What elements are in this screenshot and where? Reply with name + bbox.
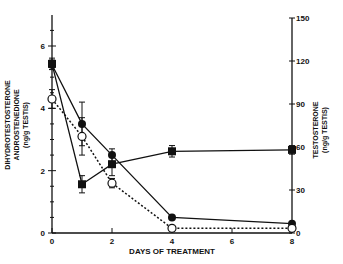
x-tick-label: 6: [230, 237, 235, 246]
y-right-tick-label: 150: [296, 14, 310, 23]
data-point: [168, 147, 176, 155]
chart: 0246802460306090120150 DAYS OF TREATMENT…: [0, 0, 343, 264]
series-line: [52, 64, 292, 184]
data-point: [108, 179, 116, 187]
y-right-tick-label: 90: [296, 100, 305, 109]
data-point: [168, 213, 176, 221]
series-layer: [48, 58, 296, 232]
svg-text:(ng/g TESTIS): (ng/g TESTIS): [22, 102, 30, 148]
x-tick-label: 4: [170, 237, 175, 246]
data-point: [108, 160, 116, 168]
y-right-tick-label: 60: [296, 143, 305, 152]
left-axis-title: DIHYDROTESTOSTERONE ANDROSTENEDIONE (ng/…: [4, 80, 30, 170]
x-tick-label: 0: [50, 237, 55, 246]
y-left-tick-label: 0: [41, 229, 46, 238]
y-left-tick-label: 4: [41, 104, 46, 113]
svg-text:DIHYDROTESTOSTERONE: DIHYDROTESTOSTERONE: [4, 80, 11, 170]
right-axis-title: TESTOSTERONE (ng/g TESTIS): [312, 101, 329, 158]
data-point: [78, 132, 86, 140]
data-point: [48, 95, 56, 103]
y-right-tick-label: 0: [296, 229, 301, 238]
svg-text:(ng/g TESTIS): (ng/g TESTIS): [321, 107, 329, 153]
y-left-tick-label: 6: [41, 42, 46, 51]
data-point: [48, 60, 56, 68]
x-tick-label: 2: [110, 237, 115, 246]
data-point: [168, 224, 176, 232]
series-line: [52, 65, 292, 224]
x-axis-title: DAYS OF TREATMENT: [129, 247, 215, 256]
y-right-tick-label: 120: [296, 57, 310, 66]
x-tick-label: 8: [290, 237, 295, 246]
data-point: [78, 180, 86, 188]
data-point: [288, 146, 296, 154]
series-line: [52, 99, 292, 228]
axes: 0246802460306090120150: [41, 14, 310, 246]
y-right-tick-label: 30: [296, 186, 305, 195]
data-point: [288, 224, 296, 232]
svg-text:TESTOSTERONE: TESTOSTERONE: [312, 101, 319, 158]
y-left-tick-label: 2: [41, 167, 46, 176]
svg-text:ANDROSTENEDIONE: ANDROSTENEDIONE: [13, 89, 20, 161]
